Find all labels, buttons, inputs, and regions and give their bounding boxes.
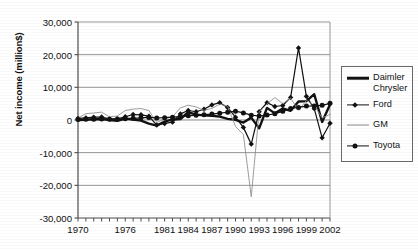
data-point-marker (99, 116, 104, 121)
data-point-marker (296, 105, 301, 110)
legend-diamond-marker-icon (347, 100, 369, 110)
y-tick-label: -20,000 (26, 180, 72, 191)
data-point-marker (319, 135, 324, 140)
data-point-marker (83, 117, 88, 122)
x-tick-label: 1981 (154, 224, 175, 235)
x-tick-label: 1990 (225, 224, 246, 235)
data-point-marker (194, 113, 199, 118)
legend-label: Ford (373, 99, 392, 110)
data-point-marker (328, 101, 333, 106)
data-point-marker (272, 104, 277, 109)
legend-label: DaimlerChrysler (373, 72, 407, 93)
chart-legend: DaimlerChryslerFordGMToyota (341, 66, 413, 162)
data-point-marker (296, 45, 301, 50)
data-point-marker (170, 115, 175, 120)
data-point-marker (131, 116, 136, 121)
data-point-marker (139, 115, 144, 120)
x-tick-label: 1996 (272, 224, 293, 235)
data-point-marker (115, 117, 120, 122)
data-point-marker (249, 141, 254, 146)
data-point-marker (107, 117, 112, 122)
x-tick-label: 1976 (115, 224, 136, 235)
data-point-marker (257, 113, 262, 118)
data-point-marker (162, 115, 167, 120)
data-point-marker (209, 112, 214, 117)
y-tick-label: 30,000 (26, 17, 72, 28)
data-point-marker (154, 115, 159, 120)
legend-item-ford[interactable]: Ford (347, 99, 392, 110)
data-point-marker (272, 111, 277, 116)
y-tick-label: -30,000 (26, 213, 72, 224)
x-tick-label: 1993 (248, 224, 269, 235)
y-tick-label: 0 (26, 115, 72, 126)
legend-item-daimler[interactable]: DaimlerChrysler (347, 72, 407, 93)
series-line-ford (78, 48, 330, 144)
legend-item-toyota[interactable]: Toyota (347, 140, 400, 151)
x-tick-label: 1984 (178, 224, 199, 235)
data-point-marker (186, 113, 191, 118)
data-point-marker (217, 111, 222, 116)
x-tick-label: 1970 (67, 224, 88, 235)
x-tick-label: 2002 (319, 224, 340, 235)
data-point-marker (202, 112, 207, 117)
data-point-marker (327, 121, 332, 126)
data-point-marker (225, 110, 230, 115)
data-point-marker (76, 117, 81, 122)
data-point-marker (123, 116, 128, 121)
data-point-marker (178, 114, 183, 119)
data-point-marker (241, 110, 246, 115)
y-axis-title: Net income (million$) (13, 10, 24, 150)
data-point-marker (312, 103, 317, 108)
data-point-marker (320, 103, 325, 108)
data-point-marker (233, 109, 238, 114)
data-point-marker (209, 102, 214, 107)
data-point-marker (146, 115, 151, 120)
data-point-marker (91, 117, 96, 122)
chart-figure: Net income (million$) 30,00020,00010,000… (0, 0, 418, 249)
x-tick-label: 1999 (296, 224, 317, 235)
legend-label-line2: Chrysler (373, 83, 407, 94)
y-tick-label: 10,000 (26, 82, 72, 93)
y-tick-label: 20,000 (26, 49, 72, 60)
data-point-marker (280, 109, 285, 114)
legend-item-gm[interactable]: GM (347, 119, 388, 130)
data-point-marker (265, 113, 270, 118)
x-tick-label: 1987 (201, 224, 222, 235)
data-point-marker (304, 104, 309, 109)
legend-thin-line-icon (347, 120, 369, 130)
legend-label: Toyota (373, 140, 400, 151)
data-point-marker (249, 113, 254, 118)
legend-label: GM (373, 119, 388, 130)
y-tick-label: -10,000 (26, 147, 72, 158)
legend-circle-marker-icon (347, 141, 369, 151)
data-point-marker (288, 106, 293, 111)
legend-thick-line-icon (347, 73, 369, 83)
